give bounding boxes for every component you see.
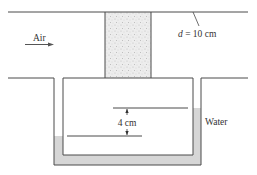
arrow-up-icon bbox=[125, 109, 128, 113]
arrow-down-icon bbox=[125, 131, 128, 135]
diagram-canvas: 4 cm Air d = 10 cm Water bbox=[0, 0, 257, 175]
level-indicators: 4 cm bbox=[67, 108, 188, 136]
air-flow: Air bbox=[25, 33, 54, 46]
water-label: Water bbox=[205, 117, 228, 127]
height-difference-label: 4 cm bbox=[118, 118, 137, 128]
diameter-label: d = 10 cm bbox=[178, 29, 217, 39]
arrow-right-icon bbox=[48, 43, 54, 47]
leader-line bbox=[193, 12, 199, 26]
porous-plug bbox=[105, 12, 151, 78]
air-label: Air bbox=[33, 33, 47, 43]
diameter-annotation: d = 10 cm bbox=[178, 12, 217, 39]
